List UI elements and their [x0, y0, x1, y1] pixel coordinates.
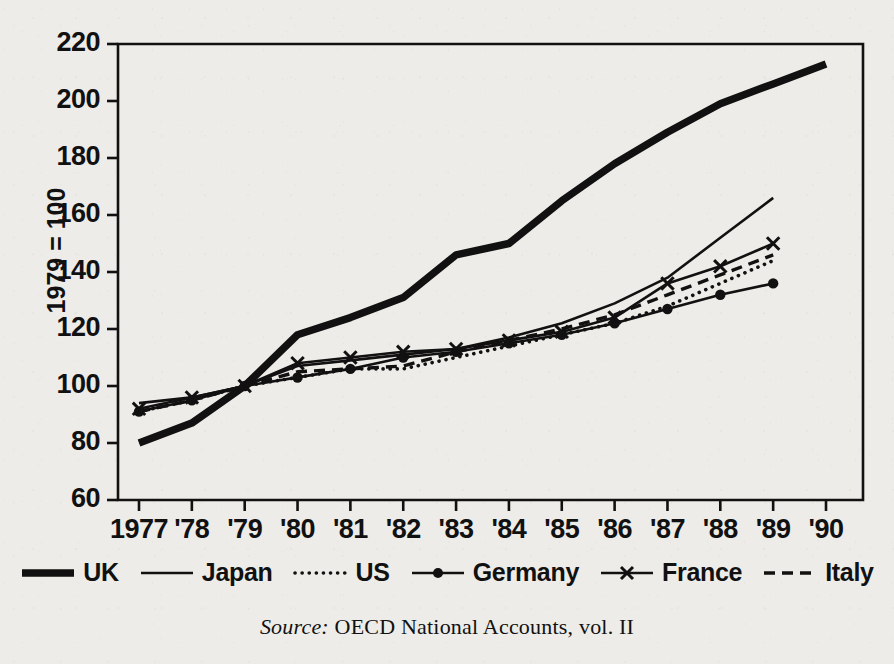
y-tick-label: 80	[0, 428, 100, 455]
plot-frame	[118, 44, 863, 500]
y-tick-label: 100	[0, 371, 100, 398]
legend-label: Germany	[473, 560, 579, 585]
legend-item-italy: Italy	[762, 560, 874, 585]
legend-item-uk: UK	[20, 560, 119, 585]
legend-swatch-uk-icon	[20, 562, 76, 584]
legend-swatch-germany-icon	[410, 562, 466, 584]
x-tick-label: '90	[786, 516, 866, 543]
series-italy	[139, 255, 773, 412]
legend-label: Japan	[202, 560, 273, 585]
legend-swatch-us-icon	[293, 562, 349, 584]
legend-label: France	[662, 560, 742, 585]
legend-swatch-italy-icon	[762, 562, 818, 584]
legend-label: Italy	[825, 560, 874, 585]
legend-item-france: France	[599, 560, 742, 585]
chart-legend: UKJapanUSGermanyFranceItaly	[0, 560, 894, 585]
legend-swatch-japan-icon	[139, 562, 195, 584]
legend-item-japan: Japan	[139, 560, 273, 585]
source-note: Source: OECD National Accounts, vol. II	[0, 614, 894, 640]
chart-figure: 6080100120140160180200220 1977'78'79'80'…	[0, 0, 894, 664]
legend-item-germany: Germany	[410, 560, 579, 585]
legend-item-us: US	[293, 560, 390, 585]
y-tick-label: 200	[0, 86, 100, 113]
legend-swatch-france-icon	[599, 562, 655, 584]
y-axis-title: 1979 = 100	[42, 151, 71, 351]
y-tick-label: 220	[0, 29, 100, 56]
y-tick-label: 60	[0, 485, 100, 512]
series-lines	[133, 64, 826, 443]
legend-label: US	[356, 560, 390, 585]
source-label: Source:	[260, 614, 329, 639]
source-text: OECD National Accounts, vol. II	[335, 614, 634, 639]
legend-label: UK	[83, 560, 119, 585]
